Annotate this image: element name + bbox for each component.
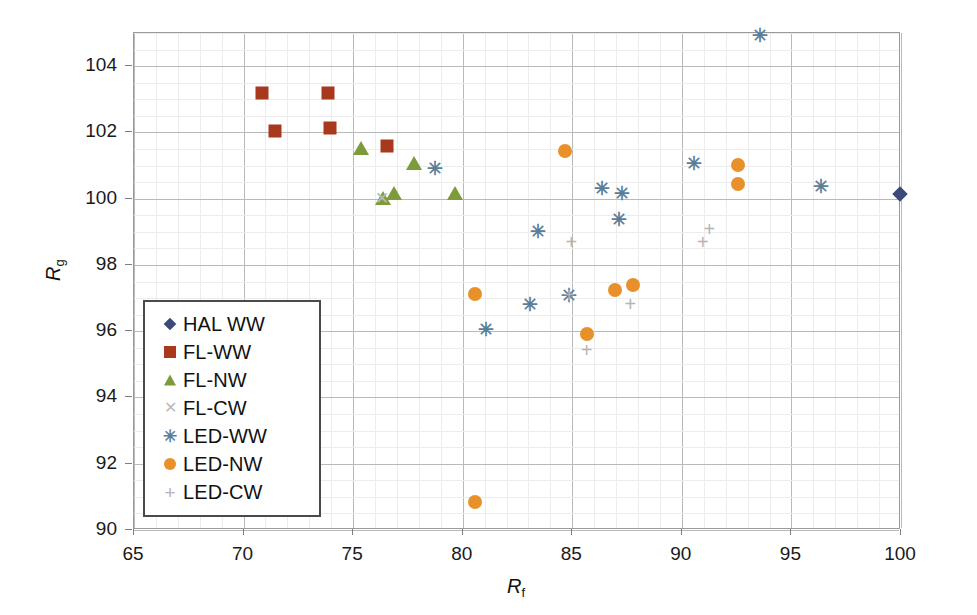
gridline-x-major	[572, 33, 573, 528]
gridline-y-minor	[134, 50, 899, 51]
y-tick	[125, 65, 132, 66]
legend-item-led-cw[interactable]: +LED-CW	[157, 478, 309, 506]
y-tick	[125, 330, 132, 331]
gridline-y-minor	[134, 33, 899, 34]
y-tick-label: 104	[85, 54, 117, 76]
legend-item-led-nw[interactable]: LED-NW	[157, 450, 309, 478]
legend-label: HAL WW	[183, 313, 265, 336]
y-tick	[125, 198, 132, 199]
x-axis-title-sub: f	[521, 585, 525, 600]
y-axis-title-main: R	[42, 267, 64, 281]
gridline-y-major	[134, 530, 899, 531]
x-axis-title: Rf	[507, 575, 525, 600]
y-axis-title-sub: g	[52, 259, 67, 266]
x-axis-title-main: R	[507, 575, 521, 597]
gridline-x-minor	[660, 33, 661, 528]
y-tick-label: 92	[96, 452, 117, 474]
gridline-x-minor	[638, 33, 639, 528]
y-tick	[125, 131, 132, 132]
gridline-y-minor	[134, 282, 899, 283]
legend-marker-triangle-icon	[157, 370, 183, 390]
gridline-y-minor	[134, 116, 899, 117]
x-tick	[133, 529, 134, 535]
legend-label: LED-CW	[183, 481, 263, 504]
legend-item-hal-ww[interactable]: HAL WW	[157, 310, 309, 338]
x-tick-label: 85	[561, 543, 582, 565]
x-tick-label: 65	[122, 543, 143, 565]
gridline-x-minor	[835, 33, 836, 528]
gridline-y-minor	[134, 182, 899, 183]
gridline-x-minor	[550, 33, 551, 528]
y-tick-label: 98	[96, 253, 117, 275]
x-tick	[352, 529, 353, 535]
gridline-x-minor	[726, 33, 727, 528]
gridline-x-minor	[879, 33, 880, 528]
gridline-x-minor	[528, 33, 529, 528]
x-tick-label: 90	[670, 543, 691, 565]
y-tick-label: 90	[96, 518, 117, 540]
y-tick-label: 102	[85, 120, 117, 142]
legend-label: FL-WW	[183, 341, 251, 364]
legend-marker-diamond-icon	[157, 314, 183, 334]
legend-marker-x-icon: ✕	[157, 398, 183, 418]
gridline-x-minor	[813, 33, 814, 528]
gridline-y-major	[134, 199, 899, 200]
x-tick	[571, 529, 572, 535]
legend-marker-circle-icon	[157, 454, 183, 474]
legend-label: FL-CW	[183, 397, 247, 420]
legend-item-led-ww[interactable]: ✳LED-WW	[157, 422, 309, 450]
y-tick	[125, 264, 132, 265]
gridline-x-minor	[748, 33, 749, 528]
gridline-x-major	[901, 33, 902, 528]
x-tick	[681, 529, 682, 535]
gridline-y-major	[134, 132, 899, 133]
x-tick-label: 100	[884, 543, 916, 565]
legend-marker-plus-icon: +	[157, 482, 183, 502]
x-tick-label: 70	[232, 543, 253, 565]
legend-item-fl-ww[interactable]: FL-WW	[157, 338, 309, 366]
legend-label: LED-WW	[183, 425, 267, 448]
y-tick	[125, 396, 132, 397]
gridline-y-minor	[134, 99, 899, 100]
gridline-x-minor	[704, 33, 705, 528]
y-axis-title: Rg	[42, 259, 67, 281]
gridline-x-minor	[485, 33, 486, 528]
x-tick-label: 80	[451, 543, 472, 565]
y-tick-label: 100	[85, 187, 117, 209]
legend-label: LED-NW	[183, 453, 263, 476]
gridline-y-minor	[134, 149, 899, 150]
gridline-x-minor	[507, 33, 508, 528]
x-tick-label: 95	[780, 543, 801, 565]
x-tick	[790, 529, 791, 535]
gridline-x-minor	[857, 33, 858, 528]
gridline-y-minor	[134, 232, 899, 233]
y-tick	[125, 463, 132, 464]
gridline-y-minor	[134, 298, 899, 299]
gridline-x-minor	[397, 33, 398, 528]
x-tick	[900, 529, 901, 535]
gridline-x-minor	[419, 33, 420, 528]
gridline-x-minor	[375, 33, 376, 528]
y-tick-label: 96	[96, 319, 117, 341]
gridline-y-minor	[134, 215, 899, 216]
legend-label: FL-NW	[183, 369, 247, 392]
gridline-x-major	[682, 33, 683, 528]
gridline-y-minor	[134, 248, 899, 249]
gridline-x-minor	[331, 33, 332, 528]
x-tick-label: 75	[342, 543, 363, 565]
x-tick	[462, 529, 463, 535]
gridline-x-minor	[594, 33, 595, 528]
gridline-y-major	[134, 66, 899, 67]
x-tick	[243, 529, 244, 535]
gridline-x-major	[791, 33, 792, 528]
legend-item-fl-nw[interactable]: FL-NW	[157, 366, 309, 394]
legend-marker-star-icon: ✳	[157, 426, 183, 446]
gridline-y-minor	[134, 166, 899, 167]
legend-marker-square-icon	[157, 342, 183, 362]
gridline-x-major	[463, 33, 464, 528]
gridline-y-minor	[134, 83, 899, 84]
chart-legend: HAL WWFL-WWFL-NW✕FL-CW✳LED-WWLED-NW+LED-…	[143, 300, 321, 517]
gridline-y-major	[134, 265, 899, 266]
gridline-x-major	[134, 33, 135, 528]
legend-item-fl-cw[interactable]: ✕FL-CW	[157, 394, 309, 422]
